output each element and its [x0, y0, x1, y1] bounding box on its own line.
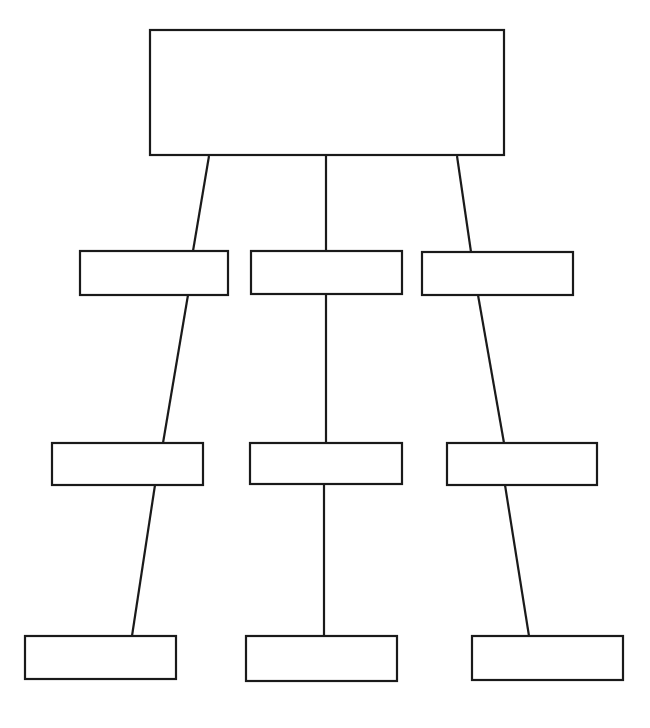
connector-layer [132, 156, 529, 636]
flowchart-node[interactable] [422, 252, 573, 295]
connector-line [193, 156, 209, 251]
flowchart-svg [0, 0, 650, 728]
flowchart-node[interactable] [52, 443, 203, 485]
flowchart-node[interactable] [250, 443, 402, 484]
node-rect[interactable] [52, 443, 203, 485]
node-rect[interactable] [251, 251, 402, 294]
flowchart-node[interactable] [472, 636, 623, 680]
flowchart-node[interactable] [80, 251, 228, 295]
node-rect[interactable] [447, 443, 597, 485]
connector-line [505, 485, 529, 636]
node-rect[interactable] [422, 252, 573, 295]
flowchart-node[interactable] [25, 636, 176, 679]
flowchart-node[interactable] [447, 443, 597, 485]
node-rect[interactable] [150, 30, 504, 155]
connector-line [457, 156, 471, 252]
node-rect[interactable] [25, 636, 176, 679]
flowchart-node[interactable] [150, 30, 504, 155]
diagram-canvas [0, 0, 650, 728]
node-rect[interactable] [472, 636, 623, 680]
node-rect[interactable] [250, 443, 402, 484]
node-rect[interactable] [80, 251, 228, 295]
flowchart-node[interactable] [251, 251, 402, 294]
connector-line [163, 295, 188, 443]
connector-line [132, 485, 155, 636]
connector-line [478, 295, 504, 443]
node-rect[interactable] [246, 636, 397, 681]
flowchart-node[interactable] [246, 636, 397, 681]
